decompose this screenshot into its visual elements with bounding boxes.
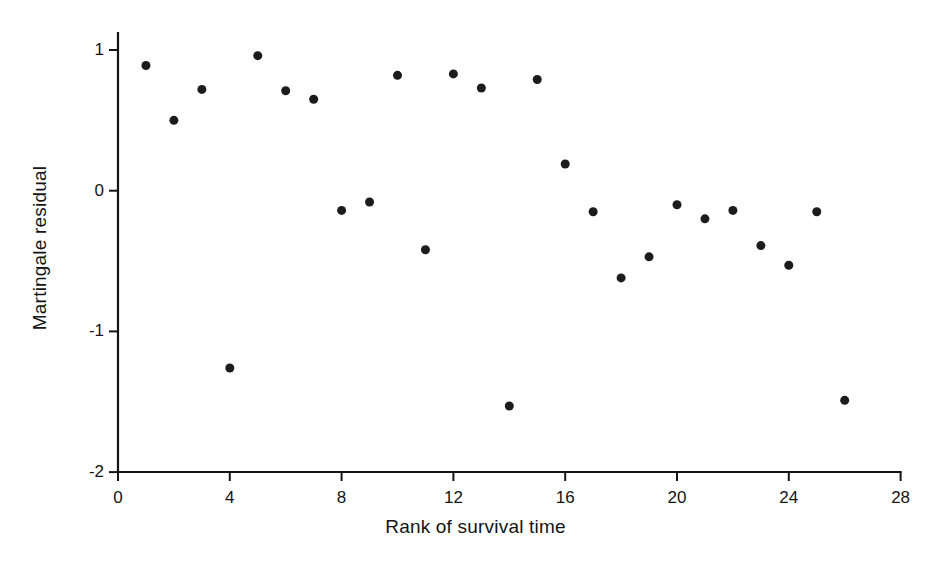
data-point xyxy=(309,95,318,104)
x-axis-title: Rank of survival time xyxy=(0,516,951,538)
data-point xyxy=(756,241,765,250)
data-point xyxy=(728,206,737,215)
data-point xyxy=(589,207,598,216)
data-point-group xyxy=(141,51,849,410)
data-point xyxy=(393,71,402,80)
data-point xyxy=(169,116,178,125)
data-point xyxy=(840,396,849,405)
data-point xyxy=(561,159,570,168)
data-point xyxy=(421,245,430,254)
x-tick-label: 20 xyxy=(668,488,687,508)
x-tick-label: 28 xyxy=(891,488,910,508)
data-point xyxy=(253,51,262,60)
data-point xyxy=(700,214,709,223)
data-point xyxy=(225,363,234,372)
y-tick-label: 0 xyxy=(72,181,104,201)
data-point xyxy=(784,261,793,270)
data-point xyxy=(505,401,514,410)
axis-tick-marks xyxy=(109,50,901,481)
data-point xyxy=(673,200,682,209)
x-tick-label: 0 xyxy=(113,488,122,508)
plot-canvas xyxy=(0,0,951,564)
data-point xyxy=(533,75,542,84)
data-point xyxy=(812,207,821,216)
y-tick-label: -1 xyxy=(72,321,104,341)
y-tick-label: -2 xyxy=(72,462,104,482)
chart-figure: 0481216202428 10-1-2 Rank of survival ti… xyxy=(0,0,951,564)
scatter-plot-area xyxy=(0,0,951,564)
data-point xyxy=(337,206,346,215)
data-point xyxy=(477,83,486,92)
data-point xyxy=(197,85,206,94)
data-point xyxy=(281,86,290,95)
y-axis-title: Martingale residual xyxy=(29,138,51,358)
data-point xyxy=(449,69,458,78)
x-tick-label: 24 xyxy=(779,488,798,508)
x-tick-label: 16 xyxy=(556,488,575,508)
x-tick-label: 4 xyxy=(225,488,234,508)
data-point xyxy=(141,61,150,70)
data-point xyxy=(617,273,626,282)
x-tick-label: 12 xyxy=(444,488,463,508)
data-point xyxy=(645,252,654,261)
data-point xyxy=(365,197,374,206)
x-tick-label: 8 xyxy=(337,488,346,508)
y-tick-label: 1 xyxy=(72,40,104,60)
